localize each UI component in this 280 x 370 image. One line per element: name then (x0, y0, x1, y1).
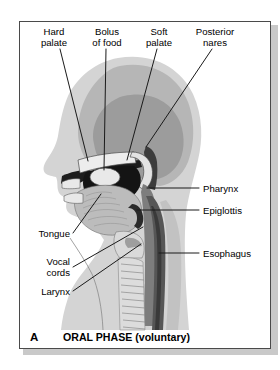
label-pharynx: Pharynx (203, 183, 265, 194)
label-vocal-cords: Vocal cords (20, 256, 70, 278)
label-soft-palate: Soft palate (135, 26, 183, 48)
panel-letter: A (30, 331, 38, 343)
label-tongue: Tongue (20, 228, 70, 239)
label-esophagus: Esophagus (203, 248, 273, 259)
figure-caption: ORAL PHASE (voluntary) (63, 331, 190, 343)
label-larynx: Larynx (20, 286, 70, 297)
label-hard-palate: Hard palate (28, 26, 80, 48)
anatomy-figure: Hard palate Bolus of food Soft palate Po… (0, 0, 280, 370)
label-bolus-of-food: Bolus of food (80, 26, 134, 48)
label-posterior-nares: Posterior nares (184, 26, 246, 48)
label-epiglottis: Epiglottis (203, 205, 265, 216)
